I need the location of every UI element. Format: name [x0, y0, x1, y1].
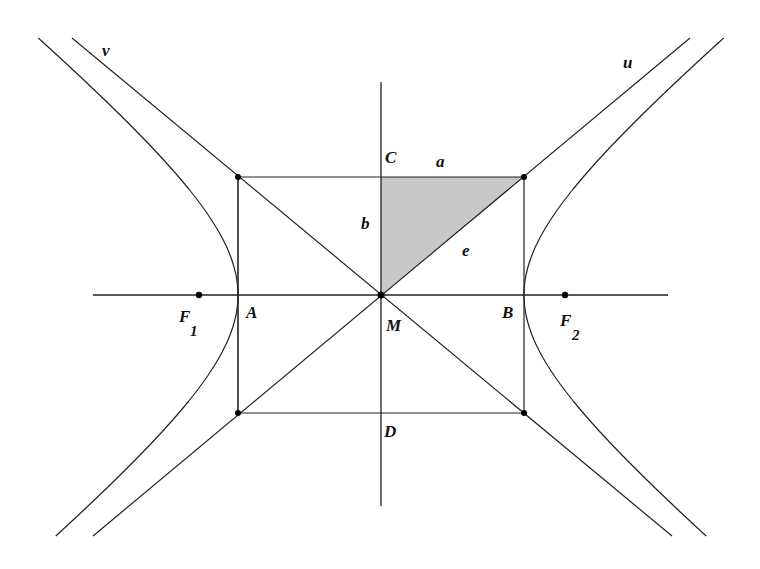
label-B: B [501, 303, 513, 322]
hyperbola-right-branch [524, 38, 724, 536]
label-u: u [623, 53, 632, 72]
label-a: a [436, 152, 445, 171]
label-F2: F [559, 311, 572, 330]
asymptote-v [72, 38, 672, 536]
label-F1-subscript: 1 [190, 323, 198, 339]
point-F1 [196, 292, 202, 298]
hyperbola-left-branch [38, 38, 238, 536]
point-F2 [562, 292, 568, 298]
label-A: A [245, 303, 257, 322]
point-M [378, 292, 385, 299]
point-top-right [521, 174, 527, 180]
point-bottom-right [521, 410, 527, 416]
label-e: e [462, 241, 470, 260]
label-C: C [385, 148, 397, 167]
asymptote-u [93, 38, 690, 536]
label-b: b [361, 214, 370, 233]
hyperbola-diagram: v u C a b e A B M D F 1 F 2 [0, 0, 760, 569]
point-top-left [235, 174, 241, 180]
label-D: D [383, 422, 396, 441]
point-bottom-left [235, 410, 241, 416]
label-v: v [102, 41, 110, 60]
label-M: M [385, 316, 402, 335]
label-F2-subscript: 2 [571, 327, 580, 343]
